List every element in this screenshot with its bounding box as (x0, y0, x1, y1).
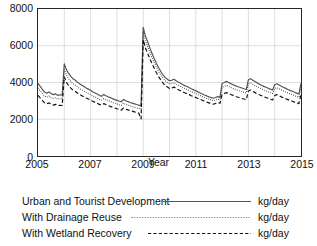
legend-line-sample (163, 196, 251, 207)
legend-line-sample (148, 228, 251, 239)
legend-label: With Wetland Recovery (22, 227, 132, 239)
y-tick-label: 4000 (0, 77, 33, 88)
y-tick-label: 6000 (0, 40, 33, 51)
legend-item-2: With Drainage Reusekg/day (0, 209, 317, 225)
chart-plot-region: 02000400060008000 2005200720092011201320… (0, 0, 317, 170)
legend-label: With Drainage Reuse (22, 211, 122, 223)
legend-item-3: With Wetland Recoverykg/day (0, 225, 317, 241)
y-tick-label: 8000 (0, 3, 33, 14)
y-tick-label: 2000 (0, 114, 33, 125)
series-line-1 (38, 27, 301, 105)
legend-unit: kg/day (258, 195, 289, 207)
legend-item-1: Urban and Tourist Developmentkg/day (0, 193, 317, 209)
series-lines (38, 9, 301, 156)
series-line-2 (38, 32, 301, 109)
legend-line-sample (131, 212, 251, 223)
legend-unit: kg/day (258, 211, 289, 223)
chart-legend: Urban and Tourist Developmentkg/dayWith … (0, 193, 317, 241)
legend-unit: kg/day (258, 227, 289, 239)
legend-label: Urban and Tourist Development (22, 195, 169, 207)
x-axis-title: Year (0, 156, 317, 168)
chart-figure: 02000400060008000 2005200720092011201320… (0, 0, 317, 246)
plot-frame (37, 8, 302, 157)
series-line-3 (38, 40, 301, 119)
